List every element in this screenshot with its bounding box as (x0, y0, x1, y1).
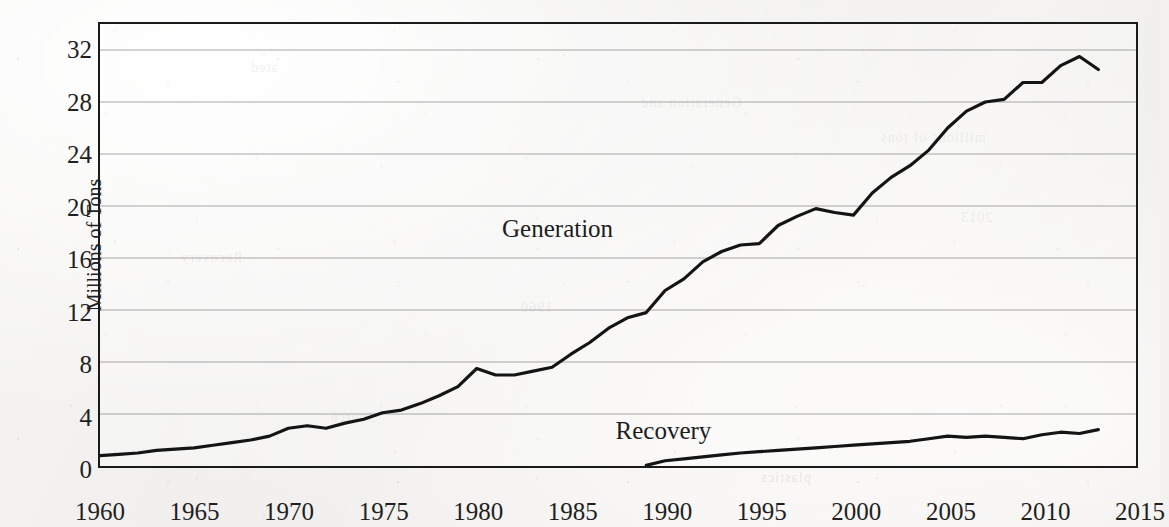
x-tick-label-1995: 1995 (707, 498, 817, 526)
x-tick-label-1980: 1980 (423, 498, 533, 526)
x-tick-label-1990: 1990 (612, 498, 722, 526)
y-tick-label-8: 8 (22, 351, 92, 379)
y-tick-label-12: 12 (22, 299, 92, 327)
x-tick-label-1960: 1960 (45, 498, 155, 526)
recovery-series-annotation: Recovery (616, 417, 712, 445)
generation-series-annotation: Generation (502, 215, 613, 243)
data-series-layer (100, 24, 1136, 466)
plot-area: Millions of Tons 048121620242832 1960196… (98, 22, 1138, 468)
y-tick-label-24: 24 (22, 141, 92, 169)
y-tick-label-0: 0 (22, 456, 92, 484)
x-tick-label-2005: 2005 (896, 498, 1006, 526)
y-tick-label-28: 28 (22, 89, 92, 117)
x-tick-label-2010: 2010 (990, 498, 1100, 526)
y-tick-label-16: 16 (22, 246, 92, 274)
x-tick-label-1975: 1975 (329, 498, 439, 526)
x-tick-label-1970: 1970 (234, 498, 344, 526)
y-tick-label-4: 4 (22, 404, 92, 432)
x-tick-label-2000: 2000 (801, 498, 911, 526)
x-tick-label-1965: 1965 (140, 498, 250, 526)
x-tick-label-1985: 1985 (518, 498, 628, 526)
y-tick-label-32: 32 (22, 36, 92, 64)
y-tick-label-20: 20 (22, 194, 92, 222)
x-tick-label-2015: 2015 (1085, 498, 1169, 526)
